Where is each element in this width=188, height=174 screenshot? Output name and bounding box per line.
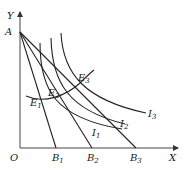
label-e3: E3: [77, 72, 90, 85]
budget-line-b3: [20, 32, 136, 148]
consumer-equilibrium-diagram: Y X O A B1 B2 B3 I1 I2 I3 E1 E2 E3: [0, 0, 188, 174]
origin-label: O: [10, 152, 18, 163]
budget-line-b2: [20, 32, 92, 148]
svg-text:B3: B3: [129, 152, 142, 165]
label-b1: B1: [51, 152, 64, 165]
label-i1: I1: [91, 127, 100, 140]
y-axis-label: Y: [7, 10, 15, 21]
svg-text:E3: E3: [77, 72, 90, 85]
svg-text:B1: B1: [51, 152, 64, 165]
x-axis-label: X: [168, 152, 177, 163]
label-i3: I3: [147, 108, 157, 121]
indifference-curve-i3: [61, 33, 146, 113]
svg-text:I3: I3: [147, 108, 157, 121]
label-b3: B3: [129, 152, 142, 165]
svg-text:I1: I1: [91, 127, 100, 140]
label-b2: B2: [86, 152, 99, 165]
svg-text:B2: B2: [86, 152, 99, 165]
point-a-label: A: [4, 26, 12, 37]
